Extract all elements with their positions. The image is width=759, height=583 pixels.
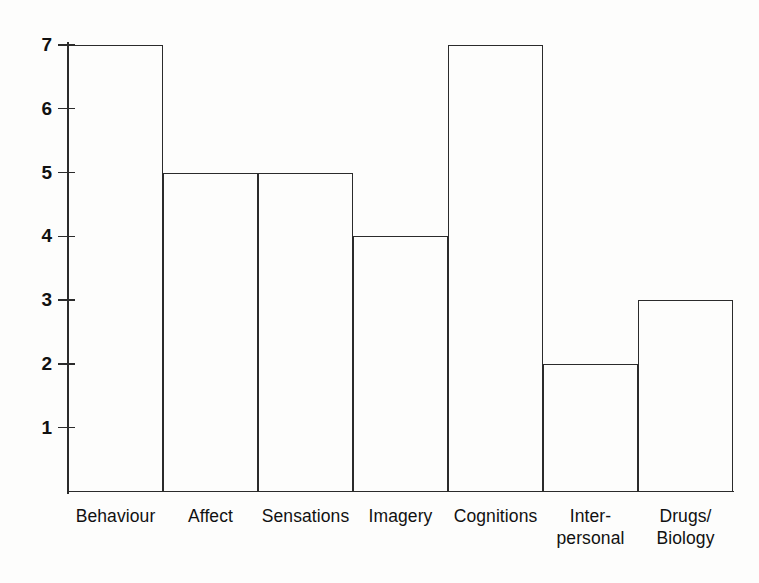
bar-chart: 1234567 BehaviourAffectSensationsImagery…	[0, 0, 759, 583]
bar	[258, 173, 353, 492]
bar	[543, 364, 638, 492]
bar	[638, 300, 733, 491]
y-tick-label: 1	[0, 418, 52, 437]
y-tick-label: 2	[0, 354, 52, 373]
bar	[448, 45, 543, 492]
y-tick-label: 5	[0, 163, 52, 182]
bar	[163, 173, 258, 492]
y-tick-label: 6	[0, 99, 52, 118]
y-tick-label: 4	[0, 226, 52, 245]
x-axis-category-label: Drugs/ Biology	[628, 505, 743, 549]
bar	[353, 236, 448, 491]
bar	[68, 45, 163, 492]
y-tick-label: 7	[0, 35, 52, 54]
y-tick-label: 3	[0, 290, 52, 309]
